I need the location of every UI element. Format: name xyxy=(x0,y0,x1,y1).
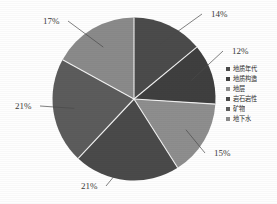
pie-percentage-label: 21% xyxy=(15,101,32,111)
legend-item-label: 地层 xyxy=(233,84,245,93)
legend-item[interactable]: 地质年代 xyxy=(225,64,277,74)
legend-item-label: 地质年代 xyxy=(233,64,257,73)
legend-item[interactable]: 地质构造 xyxy=(225,74,277,84)
pie-slices-group xyxy=(53,18,216,181)
legend-swatch-icon xyxy=(226,77,230,81)
chart-legend: 地质年代地质构造地层岩石岩性矿物地下水 xyxy=(225,64,277,124)
legend-item-label: 矿物 xyxy=(233,104,245,113)
legend-item-label: 地质构造 xyxy=(233,74,257,83)
pie-chart-figure: 14%12%15%21%21%17% 地质年代地质构造地层岩石岩性矿物地下水 xyxy=(0,0,277,204)
pie-percentage-label: 17% xyxy=(43,16,60,26)
legend-item-label: 地下水 xyxy=(233,114,251,123)
pie-percentage-label: 14% xyxy=(211,9,228,19)
legend-swatch-icon xyxy=(226,67,230,71)
pie-percentage-label: 12% xyxy=(232,46,249,56)
legend-item[interactable]: 地下水 xyxy=(225,114,277,124)
legend-item-label: 岩石岩性 xyxy=(233,94,257,103)
legend-swatch-icon xyxy=(226,117,230,121)
legend-item[interactable]: 地层 xyxy=(225,84,277,94)
legend-swatch-icon xyxy=(226,107,230,111)
legend-swatch-icon xyxy=(226,97,230,101)
pie-percentage-label: 15% xyxy=(214,148,231,158)
legend-swatch-icon xyxy=(226,87,230,91)
legend-item[interactable]: 岩石岩性 xyxy=(225,94,277,104)
legend-item[interactable]: 矿物 xyxy=(225,104,277,114)
pie-percentage-label: 21% xyxy=(81,181,98,191)
